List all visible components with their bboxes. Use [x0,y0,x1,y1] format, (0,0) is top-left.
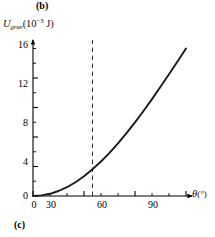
y-axis-major-ticks [33,78,38,196]
axis-lines [33,40,192,196]
plot-area [0,0,215,237]
curve-u-grav [33,49,186,197]
panel-label-c: (c) [14,219,25,230]
figure-panel-b: (b) Ugrav(10−3 J) θ(°) 16 12 8 4 0 0 30 … [0,0,215,237]
